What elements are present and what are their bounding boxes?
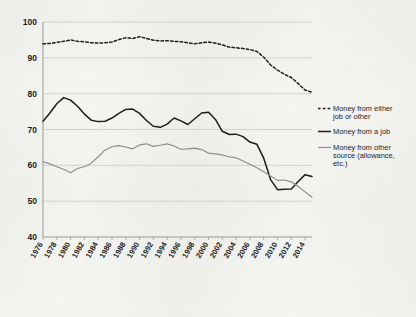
y-tick-70: 70 <box>28 125 38 135</box>
series-line-1 <box>43 98 312 190</box>
y-tick-60: 60 <box>28 160 38 170</box>
x-tick-1994: 1994 <box>153 240 170 260</box>
legend-label-2-line3: etc.) <box>333 159 347 168</box>
y-tick-100: 100 <box>23 17 37 27</box>
x-tick-2000: 2000 <box>194 241 210 260</box>
x-tick-1992: 1992 <box>139 241 155 260</box>
y-axis-tick-labels: 405060708090100 <box>23 17 37 242</box>
data-series-layer <box>43 37 312 198</box>
x-tick-2004: 2004 <box>222 240 239 260</box>
x-tick-2010: 2010 <box>263 241 279 260</box>
x-tick-1978: 1978 <box>42 241 58 260</box>
x-tick-2002: 2002 <box>208 241 224 260</box>
series-line-0 <box>43 37 312 93</box>
x-tick-1996: 1996 <box>166 241 182 260</box>
x-tick-2012: 2012 <box>277 241 293 260</box>
x-tick-2014: 2014 <box>291 240 308 260</box>
y-tick-40: 40 <box>28 232 38 242</box>
y-tick-80: 80 <box>28 89 38 99</box>
gridlines <box>43 22 312 237</box>
y-tick-50: 50 <box>28 196 38 206</box>
x-tick-2008: 2008 <box>249 241 265 260</box>
x-axis-tick-labels: 1976197819801982198419861988199019921994… <box>28 240 307 260</box>
x-tick-1976: 1976 <box>28 241 44 260</box>
y-tick-90: 90 <box>28 53 38 63</box>
legend-label-1-line1: Money from a job <box>333 127 390 136</box>
x-tick-1998: 1998 <box>180 241 196 260</box>
chart-legend: Money from eitherjob or otherMoney from … <box>318 104 395 168</box>
x-tick-1988: 1988 <box>111 241 127 260</box>
chart-svg: 405060708090100 197619781980198219841986… <box>0 0 416 317</box>
series-line-2 <box>43 144 312 197</box>
x-tick-1982: 1982 <box>70 241 86 260</box>
legend-label-0-line2: job or other <box>332 112 371 121</box>
x-tick-1980: 1980 <box>56 241 72 260</box>
line-chart: 405060708090100 197619781980198219841986… <box>0 0 416 317</box>
x-tick-1984: 1984 <box>84 240 101 260</box>
x-tick-1986: 1986 <box>97 241 113 260</box>
x-tick-1990: 1990 <box>125 241 141 260</box>
x-tick-2006: 2006 <box>235 241 251 260</box>
